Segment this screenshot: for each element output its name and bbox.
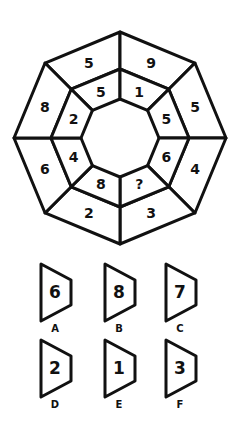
outer-value-top-right: 9 (146, 55, 156, 71)
outer-value-right-lower: 4 (190, 161, 200, 177)
option-label: F (164, 399, 196, 410)
option-value: 8 (103, 282, 135, 302)
inner-value-bottom-left: 8 (96, 176, 106, 192)
option-value: 7 (164, 282, 196, 302)
option-card-e[interactable]: 1 E (103, 338, 139, 400)
inner-value-top-left: 5 (96, 84, 106, 100)
inner-value-top-right: 1 (134, 84, 144, 100)
option-card-f[interactable]: 3 F (164, 338, 200, 400)
outer-value-left-lower: 6 (40, 161, 50, 177)
option-label: B (103, 323, 135, 334)
option-card-d[interactable]: 2 D (39, 338, 75, 400)
option-label: E (103, 399, 135, 410)
option-value: 1 (103, 358, 135, 378)
octagon-puzzle: 595432685156?842 (0, 0, 234, 250)
outer-value-right-upper: 5 (190, 99, 200, 115)
outer-value-bottom-right: 3 (146, 205, 156, 221)
option-value: 3 (164, 358, 196, 378)
option-label: C (164, 323, 196, 334)
inner-value-left-upper: 2 (69, 111, 79, 127)
option-card-b[interactable]: 8 B (103, 262, 139, 324)
option-label: A (39, 323, 71, 334)
inner-value-right-lower: 6 (162, 149, 172, 165)
inner-value-bottom-right: ? (135, 176, 143, 192)
outer-value-top-left: 5 (84, 55, 94, 71)
outer-value-bottom-left: 2 (84, 205, 94, 221)
inner-value-right-upper: 5 (162, 111, 172, 127)
option-value: 6 (39, 282, 71, 302)
option-label: D (39, 399, 71, 410)
inner-value-left-lower: 4 (69, 149, 79, 165)
option-value: 2 (39, 358, 71, 378)
option-card-a[interactable]: 6 A (39, 262, 75, 324)
option-card-c[interactable]: 7 C (164, 262, 200, 324)
outer-value-left-upper: 8 (40, 99, 50, 115)
